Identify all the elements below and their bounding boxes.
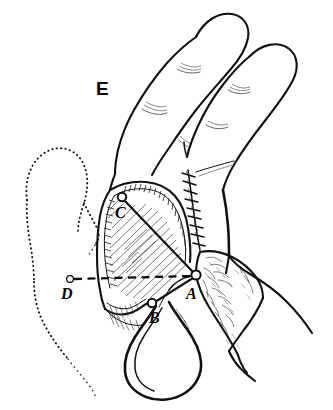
index-finger — [115, 14, 248, 175]
hand-flap-illustration: E A B C D — [0, 0, 333, 410]
panel-label-e: E — [96, 78, 109, 99]
label-point-c: C — [115, 204, 126, 221]
marker-point-d — [67, 276, 74, 283]
marker-point-a — [191, 270, 200, 279]
raw-surface-texture — [203, 257, 253, 336]
granulating-raw-surface — [196, 251, 263, 381]
phantom-thumb-outline — [26, 148, 98, 398]
flap-fold-hatching — [124, 184, 186, 250]
label-point-d: D — [60, 285, 73, 302]
label-point-b: B — [148, 309, 160, 326]
middle-finger — [187, 44, 297, 190]
marker-point-b — [148, 299, 156, 307]
suture-stitches — [182, 173, 205, 246]
annotation-lines — [124, 200, 193, 307]
figure-root: E A B C D — [0, 0, 333, 410]
marker-point-c — [118, 193, 126, 201]
label-point-a: A — [185, 285, 197, 302]
hatched-osteoplastic-flap — [97, 182, 190, 319]
tubed-pedicle-loop — [125, 302, 201, 400]
dashed-measure-line — [74, 276, 192, 279]
